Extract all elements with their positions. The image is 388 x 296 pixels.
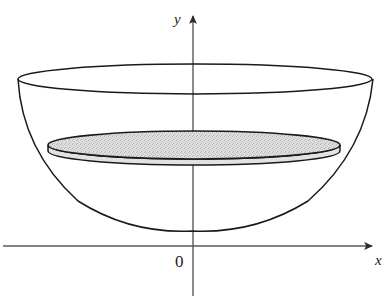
paraboloid-rim [18, 64, 372, 94]
figure-canvas: y x 0 [0, 0, 388, 296]
y-axis-label: y [174, 12, 181, 27]
origin-label: 0 [175, 253, 184, 270]
cross-section-disk [48, 131, 340, 165]
x-axis-label: x [375, 253, 382, 268]
rim-ellipse [18, 64, 372, 94]
disk-top-face [48, 131, 340, 159]
paraboloid-diagram-svg [0, 0, 388, 296]
